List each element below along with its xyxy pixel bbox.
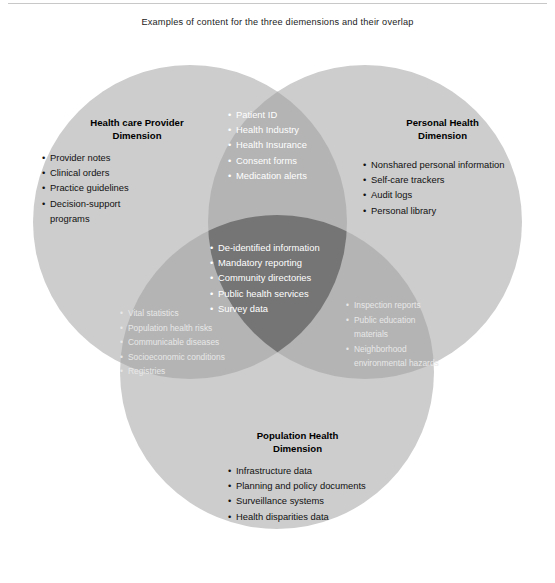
heading-line-1: Personal Health [355,116,530,129]
list-item: Nonshared personal information [363,157,555,172]
list-item: Socioeconomic conditions [120,350,255,365]
heading-line-2: Dimension [42,129,232,142]
health-care-provider-heading: Health care Provider Dimension [42,116,232,142]
population-health-heading: Population Health Dimension [200,429,395,455]
list-item-continuation: environmental hazards [346,356,471,371]
list-item: De-identified information [210,240,375,255]
list-item: Provider notes [42,150,232,165]
personal-health-heading: Personal Health Dimension [355,116,530,142]
list-item: Planning and policy documents [228,478,458,493]
list-item: Self-care trackers [363,172,555,187]
list-item: Audit logs [363,187,555,202]
heading-line-2: Dimension [200,442,395,455]
list-item: Public education [346,313,471,328]
list-item: Infrastructure data [228,463,458,478]
list-item: Health Industry [228,122,363,137]
heading-line-2: Dimension [355,129,530,142]
list-item: Practice guidelines [42,180,232,195]
list-item: Vital statistics [120,306,255,321]
list-item: Health disparities data [228,509,458,524]
list-item: Decision-support [42,196,232,211]
list-item: Registries [120,364,255,379]
list-item: Clinical orders [42,165,232,180]
personal-health-list: Nonshared personal information Self-care… [363,157,555,218]
list-item: Inspection reports [346,298,471,313]
list-item: Medication alerts [228,168,363,183]
list-item: Health Insurance [228,137,363,152]
heading-line-1: Population Health [200,429,395,442]
list-item-continuation: programs [42,211,232,226]
list-item: Consent forms [228,153,363,168]
list-item: Patient ID [228,107,363,122]
list-item-continuation: materials [346,327,471,342]
overlap-personal-population-list: Inspection reports Public education mate… [346,298,471,371]
overlap-provider-personal-list: Patient ID Health Industry Health Insura… [228,107,363,183]
list-item: Neighborhood [346,342,471,357]
health-care-provider-list: Provider notes Clinical orders Practice … [42,150,232,226]
heading-line-1: Health care Provider [42,116,232,129]
list-item: Population health risks [120,321,255,336]
overlap-provider-population-list: Vital statistics Population health risks… [120,306,255,379]
figure-page: Examples of content for the three diemen… [0,0,555,583]
list-item: Community directories [210,270,375,285]
list-item: Surveillance systems [228,493,458,508]
population-health-list: Infrastructure data Planning and policy … [228,463,458,524]
list-item: Mandatory reporting [210,255,375,270]
list-item: Personal library [363,203,555,218]
list-item: Communicable diseases [120,335,255,350]
